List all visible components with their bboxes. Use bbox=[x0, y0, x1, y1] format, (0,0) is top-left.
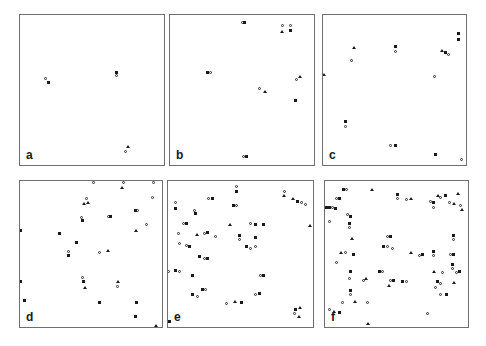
data-point bbox=[444, 194, 447, 197]
data-point bbox=[451, 263, 454, 266]
data-point bbox=[440, 49, 444, 52]
data-point bbox=[174, 207, 177, 210]
data-point bbox=[409, 251, 413, 254]
data-point bbox=[432, 206, 435, 209]
data-point bbox=[293, 312, 296, 315]
data-point bbox=[349, 215, 352, 218]
data-point bbox=[294, 308, 297, 311]
data-point bbox=[394, 50, 397, 53]
data-point bbox=[456, 192, 460, 195]
data-point bbox=[177, 232, 180, 235]
data-point bbox=[289, 24, 292, 27]
data-point bbox=[98, 251, 101, 254]
data-point bbox=[345, 188, 348, 191]
scatter-panel-c: c bbox=[322, 14, 467, 166]
data-point bbox=[198, 255, 201, 258]
data-point bbox=[145, 223, 148, 226]
data-point bbox=[178, 242, 181, 245]
data-point bbox=[92, 181, 95, 184]
data-point bbox=[174, 269, 177, 272]
data-point bbox=[434, 286, 437, 289]
data-point bbox=[196, 295, 199, 298]
data-point bbox=[225, 302, 228, 305]
scatter-panel-a: a bbox=[19, 14, 165, 166]
data-point bbox=[283, 190, 286, 193]
panel-label-b: b bbox=[176, 149, 183, 161]
data-point bbox=[194, 212, 197, 215]
data-point bbox=[439, 293, 442, 296]
data-point bbox=[339, 251, 343, 254]
data-point bbox=[452, 253, 455, 256]
data-point bbox=[249, 222, 252, 225]
data-point bbox=[349, 289, 352, 292]
data-point bbox=[115, 74, 118, 77]
data-point bbox=[432, 270, 436, 273]
data-point bbox=[124, 150, 127, 153]
data-point bbox=[98, 301, 101, 304]
scatter-panel-f: f bbox=[324, 180, 469, 328]
data-point bbox=[44, 77, 47, 80]
data-point bbox=[122, 181, 125, 184]
data-point bbox=[394, 45, 397, 48]
data-point bbox=[344, 120, 347, 123]
data-point bbox=[67, 254, 70, 257]
data-point bbox=[168, 320, 171, 323]
data-point bbox=[254, 223, 257, 226]
data-point bbox=[233, 300, 237, 303]
data-point bbox=[191, 274, 194, 277]
data-point bbox=[295, 78, 298, 81]
data-point bbox=[348, 277, 351, 280]
data-point bbox=[152, 181, 155, 184]
data-point bbox=[366, 322, 370, 325]
data-point bbox=[109, 215, 112, 218]
data-point bbox=[214, 235, 217, 238]
data-point bbox=[207, 197, 210, 200]
data-point bbox=[341, 301, 344, 304]
data-point bbox=[120, 186, 124, 189]
data-point bbox=[254, 236, 257, 239]
data-point bbox=[258, 87, 261, 90]
data-point bbox=[81, 219, 84, 222]
data-point bbox=[235, 185, 238, 188]
data-point bbox=[297, 315, 301, 318]
scatter-panel-e: e bbox=[167, 180, 314, 328]
data-point bbox=[452, 238, 455, 241]
data-point bbox=[334, 207, 337, 210]
data-point bbox=[391, 247, 394, 250]
data-point bbox=[174, 201, 177, 204]
panel-label-a: a bbox=[26, 149, 33, 161]
data-point bbox=[338, 197, 341, 200]
data-point bbox=[432, 201, 435, 204]
data-point bbox=[298, 75, 302, 78]
data-point bbox=[448, 201, 451, 204]
data-point bbox=[460, 158, 463, 161]
data-point bbox=[135, 301, 138, 304]
data-point bbox=[409, 197, 413, 200]
data-point bbox=[350, 237, 354, 240]
data-point bbox=[348, 222, 351, 225]
data-point bbox=[19, 280, 22, 283]
data-point bbox=[349, 293, 352, 296]
data-point bbox=[204, 288, 207, 291]
data-point bbox=[67, 250, 70, 253]
data-point bbox=[86, 201, 90, 204]
data-point bbox=[392, 279, 395, 282]
data-point bbox=[439, 282, 442, 285]
data-point bbox=[167, 270, 170, 273]
data-point bbox=[258, 292, 261, 295]
data-point bbox=[75, 241, 78, 244]
data-point bbox=[19, 229, 22, 232]
data-point bbox=[82, 202, 86, 205]
scatter-panel-b: b bbox=[169, 14, 315, 166]
data-point bbox=[249, 247, 252, 250]
data-point bbox=[451, 267, 454, 270]
data-point bbox=[240, 301, 243, 304]
data-point bbox=[300, 201, 303, 204]
data-point bbox=[452, 281, 456, 284]
data-point bbox=[394, 144, 397, 147]
data-point bbox=[191, 293, 194, 296]
data-point bbox=[335, 261, 338, 264]
data-point bbox=[134, 229, 138, 232]
data-point bbox=[308, 224, 312, 227]
data-point bbox=[262, 223, 265, 226]
